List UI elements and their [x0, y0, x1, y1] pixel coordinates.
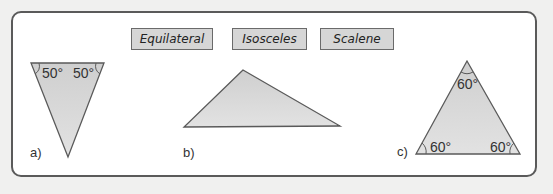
angle-c-right: 60°: [490, 139, 511, 155]
triangle-a[interactable]: 50° 50°: [31, 63, 104, 157]
angle-a-left: 50°: [42, 65, 63, 81]
triangles-figure: 50° 50° 60° 60° 60°: [0, 0, 553, 194]
label-b: b): [183, 145, 195, 160]
triangle-c[interactable]: 60° 60° 60°: [416, 61, 520, 155]
triangle-b[interactable]: [184, 70, 340, 127]
label-a: a): [30, 145, 42, 160]
angle-a-right: 50°: [73, 65, 94, 81]
angle-c-top: 60°: [457, 76, 478, 92]
angle-c-left: 60°: [430, 139, 451, 155]
label-c: c): [397, 144, 408, 159]
